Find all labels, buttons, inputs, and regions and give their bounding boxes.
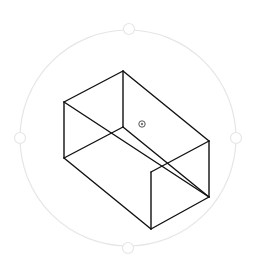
box-edge [64,102,209,197]
box-edge [123,71,209,141]
orbit-handle-top[interactable] [124,24,135,35]
box-edge [64,158,151,229]
3d-viewport[interactable] [0,0,257,270]
box-edge [151,197,209,229]
pivot-dot [141,123,143,125]
orbit-ring[interactable] [20,30,236,246]
box-edge [123,127,209,197]
orbit-handle-bottom[interactable] [123,243,134,254]
wireframe-box[interactable] [64,71,209,229]
pivot-target-icon[interactable] [139,121,145,127]
box-edge [64,71,123,102]
orbit-handle-right[interactable] [231,133,242,144]
orbit-handle-left[interactable] [15,133,26,144]
box-edge [64,127,123,158]
